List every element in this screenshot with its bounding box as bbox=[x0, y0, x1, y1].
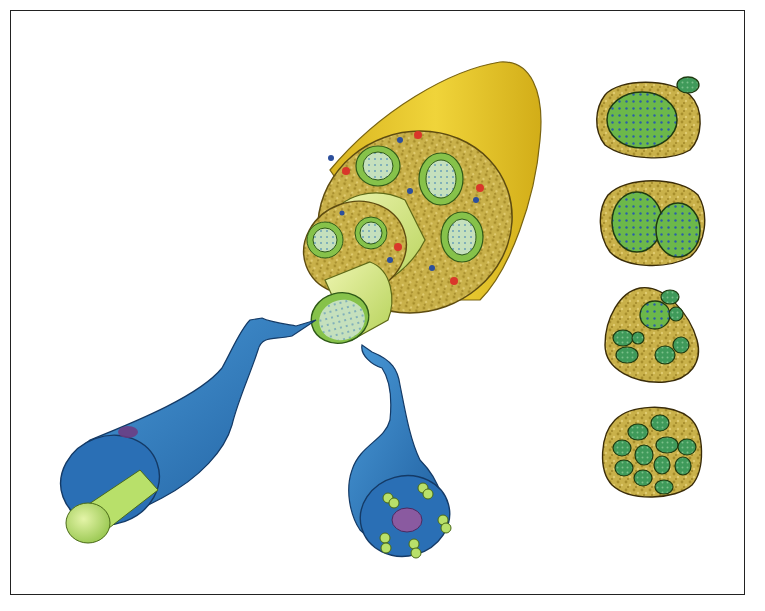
vessel-vein bbox=[328, 155, 334, 161]
cross-section-panel-2 bbox=[600, 181, 704, 266]
fascicle bbox=[355, 217, 387, 249]
fascicle bbox=[419, 153, 463, 205]
vessel-vein bbox=[473, 197, 479, 203]
vessel-vein bbox=[407, 188, 413, 194]
fascicle bbox=[441, 212, 483, 262]
vessel-artery bbox=[394, 243, 402, 251]
vessel-artery bbox=[414, 131, 422, 139]
fascicle bbox=[307, 222, 343, 258]
nerve-diagram bbox=[0, 0, 765, 611]
vessel-artery bbox=[450, 277, 458, 285]
fascicle bbox=[356, 146, 400, 186]
schwann-nucleus bbox=[118, 426, 138, 438]
vessel-vein bbox=[397, 137, 403, 143]
cross-section-panel-1 bbox=[597, 77, 700, 158]
schwann-nucleus bbox=[392, 508, 422, 532]
vessel-vein bbox=[429, 265, 435, 271]
vessel-vein bbox=[387, 257, 393, 263]
vessel-vein bbox=[340, 211, 345, 216]
cross-section-panel-4 bbox=[603, 407, 702, 497]
axon-unmyelinated bbox=[349, 345, 459, 566]
vessel-artery bbox=[476, 184, 484, 192]
axon-core bbox=[66, 503, 110, 543]
vessel-artery bbox=[342, 167, 350, 175]
cross-section-panel-3 bbox=[605, 288, 698, 383]
axon-myelinated bbox=[48, 318, 316, 543]
